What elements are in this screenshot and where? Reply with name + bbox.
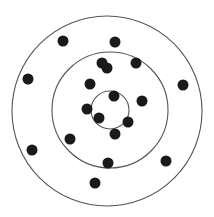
data-point <box>85 79 96 90</box>
data-point <box>110 129 121 140</box>
data-point <box>123 117 134 128</box>
data-point <box>178 80 189 91</box>
data-point <box>161 156 172 167</box>
data-point <box>90 178 101 189</box>
data-point <box>131 58 142 69</box>
outer-circle <box>12 16 202 206</box>
data-point <box>110 37 121 48</box>
data-point <box>65 134 76 145</box>
data-point <box>103 158 114 169</box>
data-point <box>109 91 120 102</box>
data-point <box>27 145 38 156</box>
data-point <box>94 113 105 124</box>
data-point <box>102 63 113 74</box>
concentric-circles <box>12 16 202 206</box>
data-point <box>82 104 93 115</box>
scatter-points <box>23 36 189 189</box>
data-point <box>23 74 34 85</box>
target-diagram <box>0 0 214 217</box>
data-point <box>58 36 69 47</box>
data-point <box>137 96 148 107</box>
